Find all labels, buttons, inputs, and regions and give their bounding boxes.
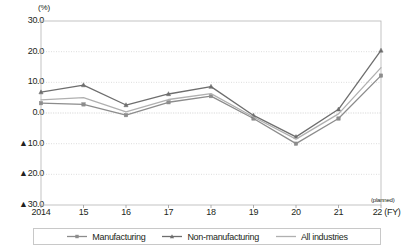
data-point-square-marker [82, 103, 85, 106]
legend-swatch-triangle-icon [161, 232, 183, 241]
data-point-square-marker [124, 113, 127, 116]
x-axis-tick-label: 17 [164, 207, 173, 217]
legend-label: Non-manufacturing [187, 232, 258, 242]
legend-swatch-square-icon [66, 232, 88, 241]
x-axis-tick-label: 19 [249, 207, 258, 217]
data-point-square-marker [39, 101, 42, 104]
series-line [41, 68, 381, 139]
legend-label: All industries [301, 232, 348, 242]
data-point-triangle-marker [379, 48, 383, 52]
data-point-square-marker [379, 74, 382, 77]
x-axis-tick-label: 21 [334, 207, 343, 217]
legend-square-marker-icon [76, 235, 79, 238]
data-point-square-marker [167, 101, 170, 104]
legend-item[interactable]: Manufacturing [66, 232, 145, 242]
series-all-industries [41, 68, 381, 139]
x-axis-tick-label: 18 [206, 207, 215, 217]
legend-item[interactable]: All industries [275, 232, 348, 242]
legend-swatch-none-icon [275, 232, 297, 241]
planned-annotation: (planned) [371, 197, 395, 204]
x-axis-tick-label: 16 [121, 207, 130, 217]
chart-legend: ManufacturingNon-manufacturingAll indust… [33, 228, 381, 245]
x-axis-tick-label: 20 [291, 207, 300, 217]
x-axis-tick-label: 22 (FY) [373, 207, 401, 217]
x-axis-tick-label: 2014 [32, 207, 51, 217]
legend-label: Manufacturing [92, 232, 145, 242]
data-point-square-marker [294, 142, 297, 145]
legend-item[interactable]: Non-manufacturing [161, 232, 258, 242]
data-point-square-marker [337, 117, 340, 120]
x-axis-tick-label: 15 [79, 207, 88, 217]
line-chart: (%) 30.020.010.00.0▲10.0▲20.0▲30.0 (plan… [0, 0, 413, 247]
